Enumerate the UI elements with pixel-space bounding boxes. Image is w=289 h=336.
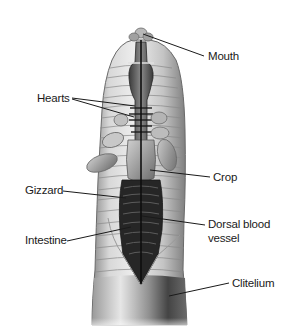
label-gizzard: Gizzard	[25, 184, 63, 197]
bottom-fade	[85, 300, 195, 330]
label-dorsal-blood-vessel-line1: Dorsal blood	[208, 218, 270, 231]
label-crop: Crop	[213, 171, 237, 184]
label-clitelium: Clitelium	[232, 277, 274, 290]
earthworm-diagram: Mouth Hearts Crop Gizzard Dorsal blood v…	[0, 0, 289, 336]
mouth-structure	[129, 28, 153, 41]
label-hearts: Hearts	[37, 92, 70, 105]
label-intestine: Intestine	[25, 234, 67, 247]
label-dorsal-blood-vessel-line2: vessel	[208, 232, 239, 245]
label-mouth: Mouth	[208, 50, 239, 63]
